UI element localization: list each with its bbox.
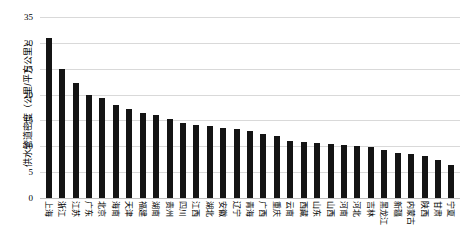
x-label-slot: 黑龙江 bbox=[378, 199, 391, 249]
x-label-slot: 山西 bbox=[324, 199, 337, 249]
x-label-slot: 天津 bbox=[123, 199, 136, 249]
bar-slot bbox=[270, 17, 283, 198]
bar[interactable] bbox=[180, 123, 186, 199]
bar-slot bbox=[203, 17, 216, 198]
x-tick-label: 湖南 bbox=[151, 201, 162, 217]
bar[interactable] bbox=[113, 105, 119, 198]
y-tick-label-0: 0 bbox=[29, 193, 34, 203]
x-label-slot: 陕西 bbox=[418, 199, 431, 249]
bar[interactable] bbox=[328, 144, 334, 198]
bar[interactable] bbox=[354, 146, 360, 198]
x-tick-label: 安徽 bbox=[218, 201, 229, 217]
y-tick-label-5: 5 bbox=[29, 167, 34, 177]
bar-slot bbox=[136, 17, 149, 198]
bar-slot bbox=[109, 17, 122, 198]
x-label-slot: 吉林 bbox=[364, 199, 377, 249]
bar[interactable] bbox=[435, 160, 441, 198]
bar-slot bbox=[257, 17, 270, 198]
x-tick-label: 山西 bbox=[325, 201, 336, 217]
bar-slot bbox=[243, 17, 256, 198]
bar[interactable] bbox=[46, 38, 52, 198]
x-tick-label: 陕西 bbox=[419, 201, 430, 217]
bar[interactable] bbox=[193, 125, 199, 198]
bar[interactable] bbox=[86, 95, 92, 198]
x-label-slot: 湖北 bbox=[203, 199, 216, 249]
x-tick-label: 贵州 bbox=[164, 201, 175, 217]
bar-slot bbox=[364, 17, 377, 198]
bar-slot bbox=[445, 17, 458, 198]
x-label-slot: 湖南 bbox=[149, 199, 162, 249]
x-tick-label: 内蒙古 bbox=[406, 201, 417, 225]
bar-slot bbox=[149, 17, 162, 198]
bar[interactable] bbox=[314, 143, 320, 198]
x-label-slot: 浙江 bbox=[55, 199, 68, 249]
x-label-slot: 宁夏 bbox=[445, 199, 458, 249]
x-tick-label: 天津 bbox=[124, 201, 135, 217]
bar[interactable] bbox=[247, 131, 253, 198]
bar[interactable] bbox=[301, 142, 307, 198]
x-label-slot: 江苏 bbox=[69, 199, 82, 249]
bar-chart: 供水管道密度（公里/平方公里） 05101520253035 上海浙江江苏广东北… bbox=[0, 0, 469, 249]
bar-slot bbox=[324, 17, 337, 198]
bar-slot bbox=[284, 17, 297, 198]
bar[interactable] bbox=[448, 165, 454, 198]
bar-slot bbox=[230, 17, 243, 198]
bar[interactable] bbox=[220, 128, 226, 198]
x-label-slot: 山东 bbox=[310, 199, 323, 249]
x-label-slot: 贵州 bbox=[163, 199, 176, 249]
bar-slot bbox=[378, 17, 391, 198]
bar[interactable] bbox=[274, 136, 280, 198]
bar-slot bbox=[337, 17, 350, 198]
x-label-slot: 重庆 bbox=[270, 199, 283, 249]
x-tick-label: 福建 bbox=[137, 201, 148, 217]
bar-slot bbox=[216, 17, 229, 198]
bar[interactable] bbox=[99, 98, 105, 198]
bar[interactable] bbox=[422, 156, 428, 198]
x-tick-label: 四川 bbox=[177, 201, 188, 217]
bar-slot bbox=[404, 17, 417, 198]
x-tick-label: 河南 bbox=[338, 201, 349, 217]
x-label-slot: 广西 bbox=[257, 199, 270, 249]
bar[interactable] bbox=[381, 150, 387, 198]
x-tick-label: 江苏 bbox=[70, 201, 81, 217]
x-label-slot: 海南 bbox=[109, 199, 122, 249]
x-label-slot: 新疆 bbox=[391, 199, 404, 249]
bar-slot bbox=[391, 17, 404, 198]
y-tick-label-25: 25 bbox=[24, 64, 33, 74]
bar-slot bbox=[69, 17, 82, 198]
bar[interactable] bbox=[167, 119, 173, 198]
bar[interactable] bbox=[73, 83, 79, 198]
bar[interactable] bbox=[126, 109, 132, 198]
x-tick-label: 青海 bbox=[245, 201, 256, 217]
bar[interactable] bbox=[368, 147, 374, 198]
x-tick-label: 海南 bbox=[110, 201, 121, 217]
bar-slot bbox=[96, 17, 109, 198]
x-label-slot: 河北 bbox=[351, 199, 364, 249]
bar[interactable] bbox=[408, 154, 414, 198]
bar[interactable] bbox=[234, 129, 240, 198]
x-tick-label: 云南 bbox=[285, 201, 296, 217]
bar[interactable] bbox=[153, 115, 159, 198]
bar[interactable] bbox=[140, 113, 146, 198]
x-tick-label: 宁夏 bbox=[446, 201, 457, 217]
x-axis-tick-labels: 上海浙江江苏广东北京海南天津福建湖南贵州四川江西湖北安徽辽宁青海广西重庆云南西藏… bbox=[40, 199, 460, 249]
bar[interactable] bbox=[260, 134, 266, 198]
x-tick-label: 重庆 bbox=[271, 201, 282, 217]
bar-slot bbox=[42, 17, 55, 198]
x-tick-label: 吉林 bbox=[365, 201, 376, 217]
bar-slot bbox=[82, 17, 95, 198]
bar-slot bbox=[351, 17, 364, 198]
x-label-slot: 河南 bbox=[337, 199, 350, 249]
x-tick-label: 江西 bbox=[191, 201, 202, 217]
bar[interactable] bbox=[341, 145, 347, 198]
x-label-slot: 北京 bbox=[96, 199, 109, 249]
x-label-slot: 广东 bbox=[82, 199, 95, 249]
y-axis-tick-labels: 05101520253035 bbox=[0, 17, 38, 198]
bar[interactable] bbox=[287, 141, 293, 198]
bar[interactable] bbox=[207, 126, 213, 198]
bar[interactable] bbox=[59, 69, 65, 198]
x-tick-label: 山东 bbox=[312, 201, 323, 217]
x-tick-label: 新疆 bbox=[392, 201, 403, 217]
bar[interactable] bbox=[395, 153, 401, 199]
bar-slot bbox=[418, 17, 431, 198]
